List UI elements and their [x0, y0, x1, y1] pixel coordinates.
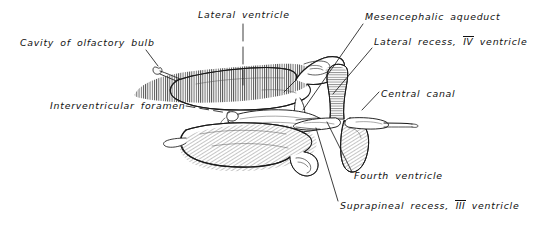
label-lateral-recess-suffix: ventricle	[480, 36, 528, 47]
anatomical-figure: Cavity of olfactory bulb Lateral ventric…	[0, 0, 537, 227]
central-canal-structure	[384, 123, 418, 127]
mesencephalic-aqueduct-structure	[322, 62, 354, 122]
label-suprapineal-recess-third-ventricle: Suprapineal recess, III ventricle	[340, 200, 519, 210]
label-interventricular-foramen: Interventricular foramen	[50, 101, 186, 110]
label-lateral-recess-prefix: Lateral recess,	[374, 36, 457, 47]
label-lateral-recess-fourth-ventricle: Lateral recess, IV ventricle	[374, 36, 527, 46]
label-cavity-of-olfactory-bulb: Cavity of olfactory bulb	[20, 38, 155, 47]
leader-cavity-of-olfactory-bulb	[146, 50, 158, 66]
leader-suprapineal-recess	[316, 128, 338, 201]
label-fourth-ventricle: Fourth ventricle	[354, 171, 443, 180]
label-lateral-ventricle: Lateral ventricle	[198, 10, 290, 19]
label-suprapineal-recess-suffix: ventricle	[472, 200, 520, 211]
upper-lateral-ventricle-structure	[130, 57, 345, 123]
label-suprapineal-recess-prefix: Suprapineal recess,	[340, 200, 449, 211]
leader-central-canal	[362, 92, 379, 110]
label-central-canal: Central canal	[381, 89, 455, 98]
label-mesencephalic-aqueduct: Mesencephalic aqueduct	[365, 12, 500, 21]
roman-numeral-iv: IV	[463, 36, 474, 46]
roman-numeral-iii: III	[455, 200, 466, 210]
ventricular-system-drawing	[0, 0, 537, 227]
